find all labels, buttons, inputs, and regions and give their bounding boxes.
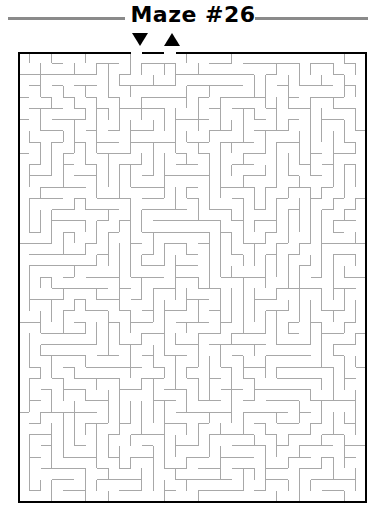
page-title: Maze #26 — [0, 0, 386, 30]
maze-figure — [18, 52, 367, 503]
entrance-marker-icon — [132, 33, 148, 46]
maze-header: Maze #26 — [0, 0, 386, 34]
title-rule-right — [255, 17, 368, 20]
maze-grid — [18, 52, 367, 503]
exit-marker-icon — [164, 33, 180, 46]
